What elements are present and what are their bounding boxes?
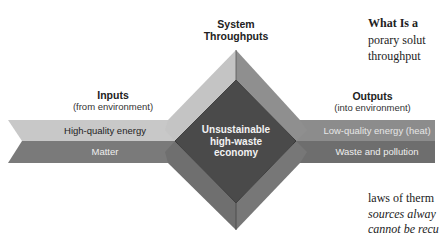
body-text-line-4: sources alway xyxy=(368,207,436,222)
body-text-line-5: cannot be recu xyxy=(368,222,439,237)
outputs-subheading: (into environment) xyxy=(320,102,425,113)
output-heat-label: Low-quality energy (heat) xyxy=(312,125,442,136)
body-text-line-2: throughput xyxy=(368,49,421,64)
inputs-subheading: (from environment) xyxy=(58,101,168,112)
input-matter-label: Matter xyxy=(40,146,170,157)
core-line3: economy xyxy=(191,147,281,159)
core-line2: high-waste xyxy=(191,136,281,148)
system-throughputs-line2: Throughputs xyxy=(196,30,276,42)
core-line1: Unsustainable xyxy=(191,124,281,136)
input-energy-label: High-quality energy xyxy=(40,125,170,136)
outputs-heading: Outputs xyxy=(320,91,425,102)
outputs-label: Outputs (into environment) xyxy=(320,91,425,113)
body-text-line-3: laws of therm xyxy=(368,191,434,206)
inputs-heading: Inputs xyxy=(58,90,168,101)
body-text-line-1: porary solut xyxy=(368,33,426,48)
core-label: Unsustainable high-waste economy xyxy=(191,124,281,159)
section-heading-fragment: What Is a xyxy=(368,16,418,31)
system-throughputs-label: System Throughputs xyxy=(196,18,276,42)
output-waste-label: Waste and pollution xyxy=(312,146,442,157)
system-throughputs-line1: System xyxy=(196,18,276,30)
inputs-label: Inputs (from environment) xyxy=(58,90,168,112)
